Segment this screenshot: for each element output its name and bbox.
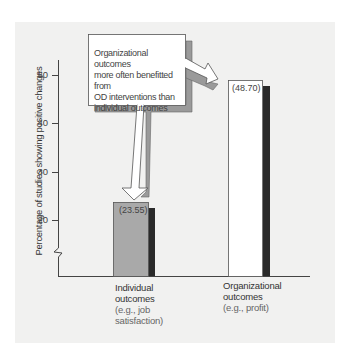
callout-line: OD interventions than xyxy=(94,92,186,103)
category-line: satisfaction) xyxy=(115,315,163,326)
category-label-organizational: Organizational outcomes (e.g., profit) xyxy=(223,280,281,313)
y-tick-40: 40 xyxy=(28,117,48,128)
bar-organizational xyxy=(229,81,271,277)
category-line: (e.g., job xyxy=(115,304,163,315)
category-line: Individual xyxy=(115,282,163,293)
category-line: outcomes xyxy=(115,293,163,304)
y-tick-50: 50 xyxy=(28,69,48,80)
y-tick-20: 20 xyxy=(28,214,48,225)
y-axis xyxy=(52,60,62,277)
callout-line: individual outcomes xyxy=(94,103,186,114)
category-line: (e.g., profit) xyxy=(223,302,281,313)
callout-line: more often benefitted from xyxy=(94,70,186,92)
callout-annotation: Organizational outcomes more often benef… xyxy=(94,48,186,114)
category-line: outcomes xyxy=(223,291,281,302)
y-tick-30: 30 xyxy=(28,166,48,177)
category-label-individual: Individual outcomes (e.g., job satisfact… xyxy=(115,282,163,326)
value-label-individual: (23.55) xyxy=(119,205,148,215)
value-label-organizational: (48.70) xyxy=(232,83,261,93)
category-line: Organizational xyxy=(223,280,281,291)
callout-line: Organizational outcomes xyxy=(94,48,186,70)
